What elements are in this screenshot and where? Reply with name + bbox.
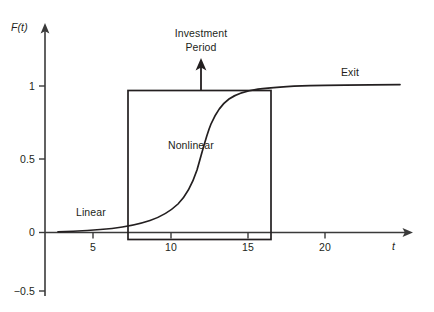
- y-axis-title: F(t): [11, 21, 28, 33]
- y-tick-label-0-5: 0.5: [10, 153, 35, 165]
- nonlinear-phase-label: Nonlinear: [168, 139, 214, 151]
- x-tick-label-20: 20: [313, 241, 337, 253]
- linear-phase-label: Linear: [76, 206, 106, 218]
- chart-figure: F(t) t 1 0.5 0 −0.5 5 10 15 20 Linear No…: [0, 0, 434, 312]
- investment-period-arrow: [196, 58, 207, 91]
- y-tick-label-1: 1: [17, 80, 35, 92]
- x-tick-label-10: 10: [159, 241, 183, 253]
- x-axis-title: t: [392, 240, 395, 252]
- investment-period-label-line1: Investment: [151, 27, 251, 39]
- y-tick-label-0: 0: [17, 226, 35, 238]
- y-axis-ticks: [39, 86, 45, 291]
- x-tick-label-5: 5: [81, 241, 105, 253]
- y-tick-label-neg-0-5: −0.5: [5, 285, 35, 297]
- f-of-t-curve: [58, 85, 400, 232]
- exit-phase-label: Exit: [341, 66, 359, 78]
- investment-period-box: [128, 91, 271, 240]
- investment-period-label-line2: Period: [151, 41, 251, 53]
- x-tick-label-15: 15: [236, 241, 260, 253]
